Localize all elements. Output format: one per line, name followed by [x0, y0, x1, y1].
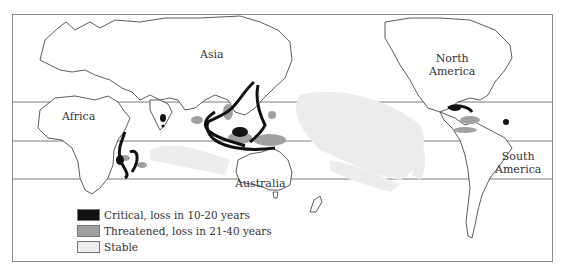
label-north-america: North America: [429, 52, 475, 78]
label-south-america: South America: [495, 150, 541, 176]
swatch-threatened: [77, 225, 100, 237]
label-africa: Africa: [62, 110, 95, 123]
label-australia: Australia: [235, 177, 286, 190]
legend-item-critical: Critical, loss in 10-20 years: [77, 207, 272, 222]
swatch-stable: [77, 241, 100, 253]
legend-item-stable: Stable: [77, 239, 272, 254]
legend: Critical, loss in 10-20 years Threatened…: [77, 207, 272, 255]
label-asia: Asia: [200, 48, 224, 61]
continents: [38, 16, 512, 238]
legend-item-threatened: Threatened, loss in 21-40 years: [77, 223, 272, 238]
swatch-critical: [77, 209, 100, 221]
